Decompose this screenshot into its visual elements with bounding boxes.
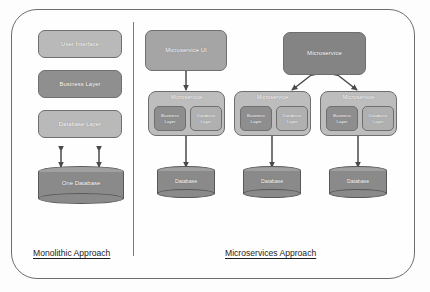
- sublayer-label: Database Layer: [278, 113, 306, 124]
- monolith-layer-database[interactable]: Database Layer: [38, 110, 122, 138]
- microservice-top-box[interactable]: Microservice: [283, 32, 366, 75]
- microservice-group-1[interactable]: Microservice Business Layer Database Lay…: [148, 91, 225, 136]
- cylinder-bottom: [243, 189, 301, 198]
- microservice-ui-box[interactable]: Microservice UI: [145, 30, 227, 71]
- sublayer-label: Database Layer: [192, 113, 220, 124]
- section-divider: [133, 22, 134, 256]
- microservice-group-title: Microservice: [321, 94, 396, 100]
- cylinder-label: Database: [329, 178, 387, 184]
- monolith-layer-label: Business Layer: [59, 81, 100, 87]
- microservice-database-cylinder-1[interactable]: Database: [157, 166, 215, 198]
- microservice-group-title: Microservice: [235, 94, 310, 100]
- cylinder-bottom: [38, 193, 124, 204]
- monolith-layer-label: Database Layer: [59, 121, 101, 127]
- microservice-sublayer-business[interactable]: Business Layer: [154, 106, 186, 131]
- microservice-group-3[interactable]: Microservice Business Layer Database Lay…: [320, 91, 397, 136]
- monolith-database-cylinder[interactable]: One Database: [38, 166, 124, 204]
- cylinder-label: Database: [157, 178, 215, 184]
- microservice-group-title: Microservice: [149, 94, 224, 100]
- sublayer-label: Business Layer: [242, 113, 270, 124]
- microservice-sublayer-business[interactable]: Business Layer: [326, 106, 358, 131]
- caption-microservices-approach: Microservices Approach: [225, 248, 316, 258]
- microservice-sublayer-database[interactable]: Database Layer: [362, 106, 394, 131]
- cylinder-bottom: [157, 189, 215, 198]
- microservice-database-cylinder-2[interactable]: Database: [243, 166, 301, 198]
- microservice-top-label: Microservice: [307, 50, 342, 56]
- microservice-ui-label: Microservice UI: [165, 47, 206, 53]
- monolith-layer-label: User Interface: [61, 41, 99, 47]
- microservice-database-cylinder-3[interactable]: Database: [329, 166, 387, 198]
- monolith-layer-user-interface[interactable]: User Interface: [38, 30, 122, 58]
- caption-monolithic-approach: Monolithic Approach: [33, 248, 110, 258]
- microservice-sublayer-database[interactable]: Database Layer: [276, 106, 308, 131]
- microservice-sublayer-business[interactable]: Business Layer: [240, 106, 272, 131]
- diagram-canvas: User Interface Business Layer Database L…: [0, 0, 430, 292]
- microservice-group-2[interactable]: Microservice Business Layer Database Lay…: [234, 91, 311, 136]
- monolith-layer-business[interactable]: Business Layer: [38, 70, 122, 98]
- sublayer-label: Database Layer: [364, 113, 392, 124]
- sublayer-label: Business Layer: [328, 113, 356, 124]
- microservice-sublayer-database[interactable]: Database Layer: [190, 106, 222, 131]
- cylinder-label: One Database: [38, 180, 124, 186]
- cylinder-label: Database: [243, 178, 301, 184]
- cylinder-bottom: [329, 189, 387, 198]
- sublayer-label: Business Layer: [156, 113, 184, 124]
